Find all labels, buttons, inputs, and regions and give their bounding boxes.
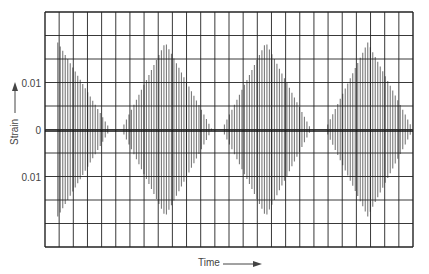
time-arrow	[223, 261, 262, 267]
y-tick-top: 0.01	[11, 78, 41, 89]
y-axis-label: Strain	[9, 119, 20, 145]
chart-grid	[45, 12, 413, 247]
y-tick-bottom: 0.01	[11, 172, 41, 183]
x-axis-label: Time	[198, 257, 220, 268]
strain-time-chart	[0, 0, 429, 274]
